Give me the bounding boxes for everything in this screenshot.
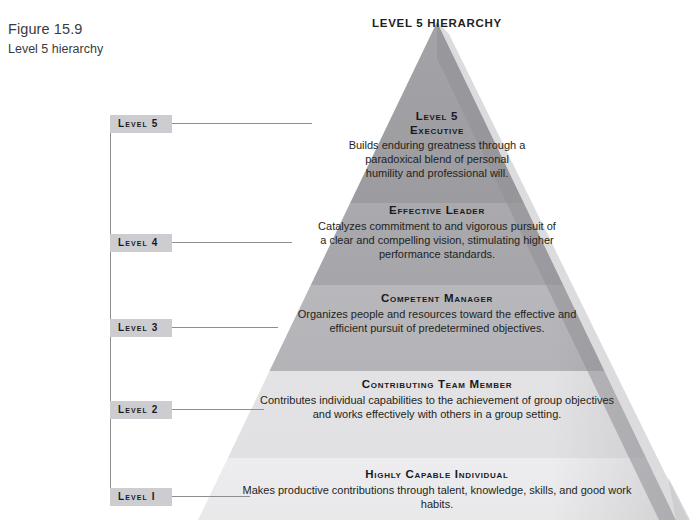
band-body-level-2: Contributes individual capabilities to t… — [257, 393, 617, 421]
pyramid-right-shading — [190, 18, 690, 528]
level-lead-line-3 — [172, 327, 278, 328]
level-lead-line-5 — [172, 123, 312, 124]
band-title-level-1: Highly Capable Individual — [237, 467, 637, 482]
level-rail-vertical — [110, 123, 111, 496]
band-label-level-4: Effective Leader Catalyzes commitment to… — [317, 203, 557, 261]
band-label-level-1: Highly Capable Individual Makes producti… — [237, 467, 637, 511]
band-title-level-2: Contributing Team Member — [257, 377, 617, 392]
pyramid-graphic — [0, 0, 698, 532]
figure-page: Figure 15.9 Level 5 hierarchy — [0, 0, 698, 532]
band-label-level-2: Contributing Team Member Contributes ind… — [257, 377, 617, 421]
level-chip-level-1[interactable]: Level I — [110, 488, 172, 506]
pyramid-bands — [190, 18, 690, 528]
level-lead-line-2 — [172, 409, 264, 410]
level-lead-line-4 — [172, 242, 292, 243]
level-chip-level-5[interactable]: Level 5 — [110, 115, 172, 133]
level-chip-label: Level I — [118, 491, 156, 502]
level-chip-label: Level 3 — [118, 322, 158, 333]
pyramid-title-text: LEVEL 5 HIERARCHY — [372, 17, 502, 29]
band-body-level-4: Catalyzes commitment to and vigorous pur… — [317, 219, 557, 261]
level-chip-level-4[interactable]: Level 4 — [110, 234, 172, 252]
level-chip-level-2[interactable]: Level 2 — [110, 401, 172, 419]
band-body-level-3: Organizes people and resources toward th… — [297, 307, 577, 335]
pyramid-svg — [0, 0, 698, 532]
level-chip-level-3[interactable]: Level 3 — [110, 319, 172, 337]
band-label-level-5: Level 5 Executive Builds enduring greatn… — [347, 110, 527, 180]
band-title-line-2: Executive — [410, 124, 464, 136]
level-chip-label: Level 4 — [118, 237, 158, 248]
level-chip-label: Level 5 — [118, 118, 158, 129]
band-title-level-3: Competent Manager — [297, 291, 577, 306]
band-body-level-1: Makes productive contributions through t… — [237, 483, 637, 511]
band-title-line-1: Level 5 — [416, 110, 458, 122]
band-title-level-5: Level 5 Executive — [347, 110, 527, 137]
level-chip-label: Level 2 — [118, 404, 158, 415]
band-title-level-4: Effective Leader — [317, 203, 557, 218]
band-label-level-3: Competent Manager Organizes people and r… — [297, 291, 577, 335]
band-body-level-5: Builds enduring greatness through a para… — [347, 138, 527, 180]
pyramid-title: LEVEL 5 HIERARCHY — [0, 17, 698, 29]
